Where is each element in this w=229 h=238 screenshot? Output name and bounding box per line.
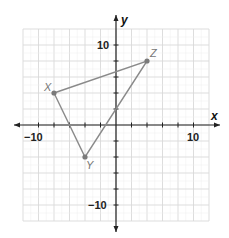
axes xyxy=(14,15,220,232)
x-axis-arrow-right-icon xyxy=(214,123,220,128)
vertex-label-x: X xyxy=(43,81,52,93)
y-axis-arrow-down-icon xyxy=(114,226,119,232)
vertex-point-z xyxy=(144,58,149,63)
vertex-point-x xyxy=(51,90,56,95)
coordinate-plane: x y −10 10 10 −10 X Y Z xyxy=(0,0,229,238)
y-axis-label: y xyxy=(120,13,129,27)
vertex-label-y: Y xyxy=(86,159,94,171)
y-axis-arrow-up-icon xyxy=(114,15,119,21)
x-axis-arrow-left-icon xyxy=(14,123,20,128)
x-tick-label-neg10: −10 xyxy=(24,131,43,143)
vertex-label-z: Z xyxy=(149,47,158,59)
y-tick-label-10: 10 xyxy=(97,39,109,51)
x-axis-label: x xyxy=(210,109,219,123)
x-tick-label-10: 10 xyxy=(187,131,199,143)
y-tick-label-neg10: −10 xyxy=(88,199,107,211)
